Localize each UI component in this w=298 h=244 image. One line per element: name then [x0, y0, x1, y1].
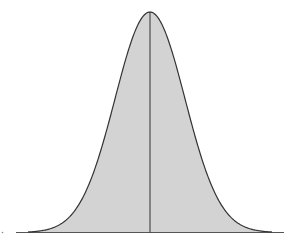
normal-distribution-chart — [0, 0, 298, 244]
stray-dot — [2, 232, 4, 234]
